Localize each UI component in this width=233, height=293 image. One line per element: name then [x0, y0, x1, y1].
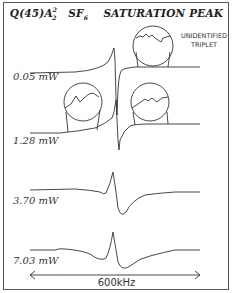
scale-bar-label: 600kHz: [0, 277, 233, 288]
spectra-plot: [0, 0, 233, 293]
inset-triplet: [133, 26, 173, 66]
trace-1: [30, 100, 200, 150]
trace-2: [30, 172, 200, 214]
inset-right: [131, 83, 169, 121]
inset-left: [64, 83, 102, 121]
trace-3: [30, 232, 200, 268]
